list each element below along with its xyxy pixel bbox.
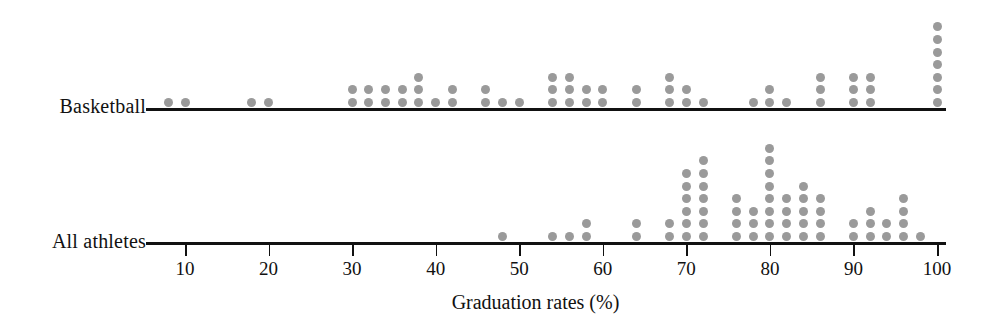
x-axis-tick-label: 40 (426, 258, 445, 280)
data-dot (866, 232, 875, 241)
data-dot (632, 98, 641, 107)
data-dot (565, 73, 574, 82)
data-dot (749, 219, 758, 228)
data-dot (682, 182, 691, 191)
x-axis-tick-label: 90 (844, 258, 863, 280)
data-dot (749, 207, 758, 216)
data-dot (933, 60, 942, 69)
data-dot (849, 85, 858, 94)
data-dot (765, 182, 774, 191)
data-dot (749, 98, 758, 107)
data-dot (682, 207, 691, 216)
data-dot (565, 85, 574, 94)
data-dot (565, 232, 574, 241)
data-dot (548, 73, 557, 82)
data-dot (866, 219, 875, 228)
data-dot (398, 85, 407, 94)
data-dot (699, 98, 708, 107)
data-dot (799, 194, 808, 203)
series-label-basketball: Basketball (60, 95, 146, 118)
x-axis-tick-label: 30 (343, 258, 362, 280)
data-dot (933, 22, 942, 31)
data-dot (565, 98, 574, 107)
x-axis-tick-label: 80 (760, 258, 779, 280)
data-dot (699, 156, 708, 165)
data-dot (933, 85, 942, 94)
data-dot (431, 98, 440, 107)
data-dot (699, 169, 708, 178)
data-dot (899, 207, 908, 216)
data-dot (582, 85, 591, 94)
data-dot (916, 232, 925, 241)
x-axis-tick (853, 245, 855, 256)
x-axis-tick-label: 50 (510, 258, 529, 280)
data-dot (799, 182, 808, 191)
data-dot (816, 219, 825, 228)
data-dot (732, 207, 741, 216)
data-dot (765, 219, 774, 228)
data-dot (765, 194, 774, 203)
data-dot (381, 85, 390, 94)
x-axis-title-text: Graduation rates (%) (452, 291, 620, 314)
data-dot (682, 85, 691, 94)
x-axis-tick (352, 245, 354, 256)
data-dot (866, 73, 875, 82)
baseline-basketball (146, 108, 946, 111)
series-label-all-athletes: All athletes (52, 230, 146, 253)
data-dot (682, 169, 691, 178)
x-axis-tick (269, 245, 271, 256)
data-dot (247, 98, 256, 107)
data-dot (181, 98, 190, 107)
data-dot (732, 194, 741, 203)
data-dot (632, 232, 641, 241)
data-dot (866, 98, 875, 107)
data-dot (665, 73, 674, 82)
data-dot (816, 207, 825, 216)
data-dot (899, 219, 908, 228)
data-dot (799, 219, 808, 228)
data-dot (381, 98, 390, 107)
data-dot (364, 85, 373, 94)
data-dot (548, 98, 557, 107)
data-dot (849, 232, 858, 241)
data-dot (632, 85, 641, 94)
data-dot (414, 98, 423, 107)
data-dot (849, 73, 858, 82)
data-dot (732, 232, 741, 241)
data-dot (699, 182, 708, 191)
data-dot (782, 194, 791, 203)
x-axis-tick-label: 10 (176, 258, 195, 280)
x-axis-tick-label: 100 (923, 258, 952, 280)
x-axis-tick-label: 60 (593, 258, 612, 280)
data-dot (782, 207, 791, 216)
data-dot (882, 219, 891, 228)
data-dot (866, 85, 875, 94)
data-dot (882, 232, 891, 241)
data-dot (699, 194, 708, 203)
data-dot (448, 98, 457, 107)
data-dot (765, 156, 774, 165)
data-dot (582, 98, 591, 107)
data-dot (398, 98, 407, 107)
data-dot (849, 219, 858, 228)
data-dot (782, 219, 791, 228)
x-axis-tick (603, 245, 605, 256)
data-dot (682, 232, 691, 241)
x-axis-tick (436, 245, 438, 256)
data-dot (414, 85, 423, 94)
data-dot (515, 98, 524, 107)
data-dot (816, 85, 825, 94)
x-axis-tick-label: 70 (677, 258, 696, 280)
data-dot (933, 73, 942, 82)
x-axis-tick (686, 245, 688, 256)
data-dot (765, 169, 774, 178)
data-dot (899, 194, 908, 203)
data-dot (933, 35, 942, 44)
data-dot (498, 232, 507, 241)
data-dot (665, 232, 674, 241)
data-dot (481, 98, 490, 107)
x-axis-tick (185, 245, 187, 256)
data-dot (481, 85, 490, 94)
baseline-all-athletes (146, 242, 946, 245)
data-dot (765, 207, 774, 216)
